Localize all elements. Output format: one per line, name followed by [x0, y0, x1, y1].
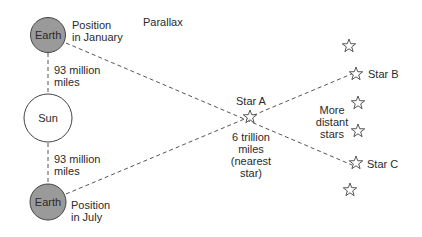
star-b-icon — [349, 67, 362, 80]
distant-star-icon — [343, 183, 356, 196]
earth-january-label: Earth — [35, 29, 61, 41]
earth-january-caption: Position in January — [72, 19, 123, 43]
star-a-icon — [243, 110, 256, 123]
diagram-title: Parallax — [143, 16, 183, 28]
sun-label: Sun — [36, 112, 60, 124]
sightline-july — [66, 73, 354, 194]
distant-star-icon — [351, 96, 364, 109]
star-a-note: 6 trillion miles (nearest star) — [226, 131, 276, 179]
sightline-january — [66, 43, 352, 165]
earth-july-caption: Position in July — [71, 199, 110, 223]
distance-top-label: 93 million miles — [54, 64, 100, 88]
star-a-label: Star A — [236, 95, 266, 107]
earth-july-label: Earth — [34, 196, 62, 208]
star-c-label: Star C — [367, 158, 398, 170]
star-c-icon — [349, 156, 362, 169]
distant-star-icon — [351, 124, 364, 137]
parallax-diagram — [0, 0, 422, 237]
distant-stars-label: More distant stars — [312, 104, 352, 140]
distant-star-icon — [342, 39, 355, 52]
star-b-label: Star B — [368, 68, 399, 80]
distance-bottom-label: 93 million miles — [54, 153, 100, 177]
